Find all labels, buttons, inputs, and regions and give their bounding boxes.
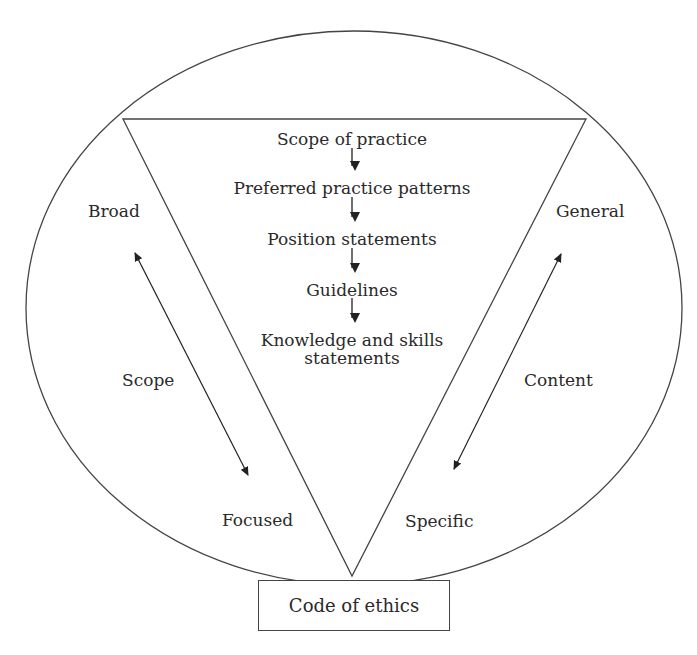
code-of-ethics-box: Code of ethics — [258, 580, 450, 631]
hierarchy-item-guidelines: Guidelines — [306, 282, 398, 299]
label-specific: Specific — [405, 513, 473, 530]
hierarchy-item-position-statements: Position statements — [267, 231, 436, 248]
label-content: Content — [524, 372, 593, 389]
hierarchy-item-knowledge-line2: statements — [261, 350, 444, 368]
label-general: General — [556, 203, 624, 220]
diagram-canvas — [0, 0, 697, 655]
label-scope: Scope — [122, 372, 174, 389]
code-of-ethics-label: Code of ethics — [289, 595, 419, 616]
hierarchy-item-scope-of-practice: Scope of practice — [277, 131, 427, 148]
label-focused: Focused — [222, 512, 293, 529]
label-broad: Broad — [88, 203, 140, 220]
hierarchy-item-knowledge-and-skills: Knowledge and skills statements — [261, 332, 444, 368]
hierarchy-item-preferred-practice-patterns: Preferred practice patterns — [233, 180, 470, 197]
